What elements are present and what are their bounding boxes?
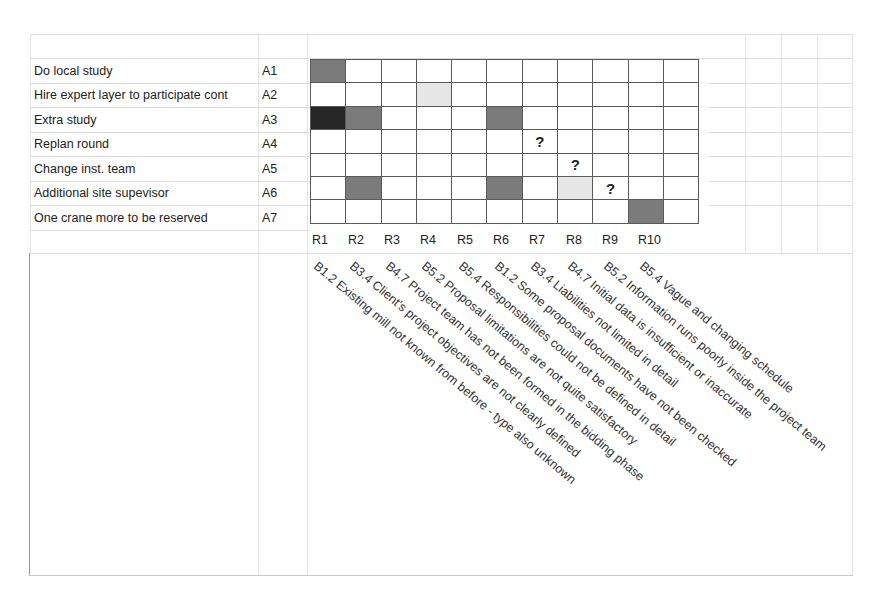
matrix-cell-uncertain: ? (593, 176, 628, 199)
matrix-cell-empty (628, 106, 663, 129)
matrix-cell-empty (663, 200, 698, 223)
action-code: A1 (262, 59, 277, 83)
matrix-cell-empty (487, 60, 522, 83)
action-code: A2 (262, 83, 277, 107)
matrix-cell-empty (416, 106, 451, 129)
gridline (30, 253, 853, 254)
risk-code: R10 (638, 233, 661, 247)
action-label: Extra study (34, 108, 97, 132)
matrix-cell-empty (593, 83, 628, 106)
matrix-cell-medium (311, 60, 346, 83)
gridline (307, 34, 308, 575)
gridline (258, 34, 259, 575)
risk-code: R8 (566, 233, 582, 247)
frame-left-border (29, 253, 30, 575)
matrix-cell-dark (311, 106, 346, 129)
matrix-cell-empty (593, 153, 628, 176)
matrix-cell-empty (452, 60, 487, 83)
matrix-row (311, 60, 699, 83)
matrix-cell-empty (346, 153, 381, 176)
action-label: Additional site supevisor (34, 181, 169, 205)
matrix-cell-empty (487, 83, 522, 106)
matrix-cell-empty (381, 200, 416, 223)
matrix-row (311, 200, 699, 223)
matrix-cell-empty (663, 130, 698, 153)
matrix-cell-empty (381, 106, 416, 129)
matrix-cell-empty (452, 153, 487, 176)
matrix-cell-empty (593, 130, 628, 153)
action-code: A3 (262, 108, 277, 132)
risk-code: R6 (493, 233, 509, 247)
matrix-cell-medium (628, 200, 663, 223)
matrix-cell-empty (522, 200, 557, 223)
gridline (745, 34, 746, 254)
matrix-cell-empty (522, 176, 557, 199)
matrix-cell-empty (381, 130, 416, 153)
matrix-cell-empty (381, 153, 416, 176)
matrix-cell-uncertain: ? (558, 153, 593, 176)
matrix-cell-empty (663, 176, 698, 199)
gridline (30, 34, 853, 35)
matrix-cell-empty (628, 83, 663, 106)
action-label: Hire expert layer to participate cont (34, 83, 228, 107)
matrix-row (311, 83, 699, 106)
matrix-cell-empty (663, 153, 698, 176)
matrix-cell-empty (558, 106, 593, 129)
matrix-cell-empty (346, 200, 381, 223)
gridline (30, 34, 31, 254)
matrix-cell-empty (663, 106, 698, 129)
matrix-cell-empty (346, 60, 381, 83)
matrix-cell-medium (346, 106, 381, 129)
matrix-cell-empty (311, 176, 346, 199)
action-risk-matrix: ??? (310, 59, 699, 224)
risk-code: R1 (312, 233, 328, 247)
matrix-cell-empty (628, 153, 663, 176)
risk-code: R7 (529, 233, 545, 247)
matrix-cell-empty (452, 200, 487, 223)
matrix-cell-medium (487, 176, 522, 199)
matrix-cell-empty (628, 60, 663, 83)
matrix-cell-empty (416, 200, 451, 223)
gridline (852, 34, 853, 575)
matrix-cell-empty (311, 200, 346, 223)
action-code: A7 (262, 206, 277, 230)
matrix-cell-empty (628, 176, 663, 199)
matrix-cell-medium (346, 176, 381, 199)
gridline (817, 34, 818, 254)
matrix-cell-empty (558, 83, 593, 106)
matrix-cell-empty (522, 60, 557, 83)
risk-code: R4 (420, 233, 436, 247)
risk-code: R9 (602, 233, 618, 247)
risk-code: R3 (384, 233, 400, 247)
matrix-cell-empty (311, 153, 346, 176)
matrix-cell-empty (522, 83, 557, 106)
matrix-cell-empty (487, 130, 522, 153)
matrix-cell-empty (381, 83, 416, 106)
matrix-row: ? (311, 153, 699, 176)
matrix-cell-empty (663, 83, 698, 106)
matrix-row (311, 106, 699, 129)
gridline (781, 34, 782, 254)
matrix-cell-empty (381, 176, 416, 199)
matrix-cell-empty (416, 130, 451, 153)
matrix-cell-light (558, 176, 593, 199)
action-code: A4 (262, 132, 277, 156)
matrix-cell-empty (346, 83, 381, 106)
matrix-cell-empty (522, 153, 557, 176)
matrix-cell-empty (452, 176, 487, 199)
spreadsheet: Do local study A1 Hire expert layer to p… (0, 0, 880, 598)
matrix-cell-empty (452, 83, 487, 106)
matrix-cell-empty (487, 153, 522, 176)
matrix-cell-empty (311, 83, 346, 106)
action-code: A6 (262, 181, 277, 205)
risk-code: R2 (348, 233, 364, 247)
matrix-cell-empty (416, 176, 451, 199)
matrix-row: ? (311, 130, 699, 153)
action-label: Change inst. team (34, 157, 135, 181)
gridline (30, 230, 310, 231)
matrix-cell-empty (381, 60, 416, 83)
action-label: Replan round (34, 132, 109, 156)
matrix-cell-empty (487, 200, 522, 223)
matrix-cell-empty (558, 200, 593, 223)
matrix-cell-empty (522, 106, 557, 129)
